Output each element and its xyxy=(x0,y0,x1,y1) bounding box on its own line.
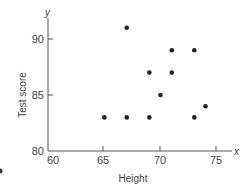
data-point xyxy=(170,48,175,53)
data-point xyxy=(125,115,130,120)
y-axis-title: Test score xyxy=(17,72,28,118)
scan-artifact-dot xyxy=(0,169,3,174)
x-tick-label-60: 60 xyxy=(47,154,59,166)
x-tick-label-75: 75 xyxy=(210,154,222,166)
data-points xyxy=(102,26,208,120)
y-tick-label-85: 85 xyxy=(32,89,44,101)
y-axis-var: y xyxy=(44,7,51,18)
x-axis-var: x xyxy=(233,146,240,157)
data-point xyxy=(203,104,208,109)
data-point xyxy=(102,115,107,120)
data-point xyxy=(192,115,197,120)
data-point xyxy=(170,70,175,75)
scatter-chart: y x 90 85 80 60 65 70 75 Height Test sco… xyxy=(0,0,251,191)
data-point xyxy=(147,115,152,120)
data-point xyxy=(147,70,152,75)
y-tick-label-80: 80 xyxy=(32,145,44,157)
y-tick-label-90: 90 xyxy=(32,33,44,45)
data-point xyxy=(125,26,130,31)
data-point xyxy=(192,48,197,53)
x-tick-label-70: 70 xyxy=(154,154,166,166)
data-point xyxy=(158,93,163,98)
x-axis-title: Height xyxy=(119,173,148,184)
x-tick-label-65: 65 xyxy=(97,154,109,166)
